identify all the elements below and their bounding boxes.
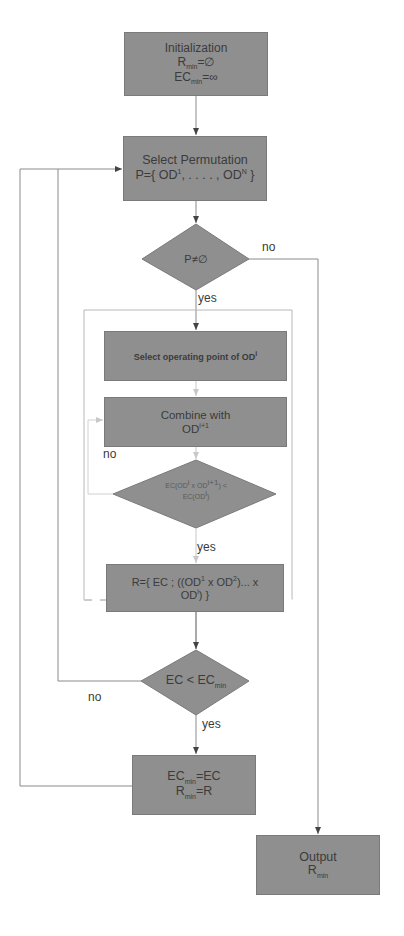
p-yes-label: yes	[198, 291, 217, 305]
p-no-label: no	[262, 240, 275, 254]
decision-p-label: P≠∅	[184, 253, 207, 265]
output-node: Output Rmin	[256, 835, 380, 895]
init-ecmin: ECmin=∞	[174, 71, 218, 86]
permutation-set: P={ OD1, . . . . , ODN }	[135, 168, 254, 183]
inner-no-label: no	[103, 447, 116, 461]
decision-min-label: EC < ECmin	[166, 674, 226, 689]
result-r-node: R={ EC ; ((OD1 x OD2)... x ODi) }	[106, 564, 284, 612]
select-operating-point-node: Select operating point of ODi	[104, 331, 287, 381]
combine-node: Combine with ODi+1	[104, 397, 287, 447]
decision-ec-label: EC(ODi x ODi+1) < EC(ODi)	[165, 479, 227, 501]
initialization-node: Initialization Rmin=∅ ECmin=∞	[124, 32, 268, 96]
update-min-node: ECmin=EC Rmin=R	[132, 755, 256, 815]
min-yes-label: yes	[202, 717, 221, 731]
select-permutation-title: Select Permutation	[142, 154, 248, 168]
min-no-label: no	[88, 690, 101, 704]
init-rmin: Rmin=∅	[178, 56, 215, 71]
select-permutation-node: Select Permutation P={ OD1, . . . . , OD…	[123, 136, 267, 201]
init-title: Initialization	[165, 42, 228, 55]
inner-yes-label: yes	[197, 540, 216, 554]
